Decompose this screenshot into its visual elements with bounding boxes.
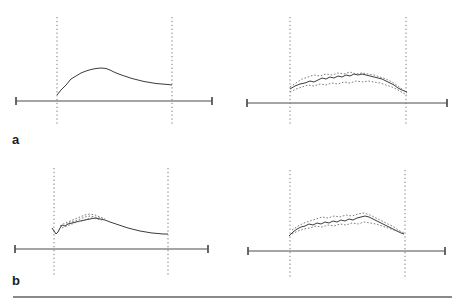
panel-a_right: [247, 17, 447, 125]
curve-trace-4-dotted: [62, 218, 102, 228]
panel-a_left: [16, 17, 212, 125]
panel-label-a: a: [12, 133, 19, 146]
bottom-rule: [13, 296, 452, 298]
curve-trace-1-solid: [57, 68, 172, 95]
panel-label-b: b: [12, 274, 20, 287]
figure-page: a b: [0, 0, 465, 308]
curve-trace-1-solid: [52, 218, 168, 234]
curve-trace-1-solid: [289, 216, 404, 236]
panel-b_left: [15, 168, 208, 276]
curve-trace-2-dotted: [292, 213, 404, 233]
plots-canvas: [0, 0, 465, 308]
panel-b_right: [248, 170, 445, 278]
